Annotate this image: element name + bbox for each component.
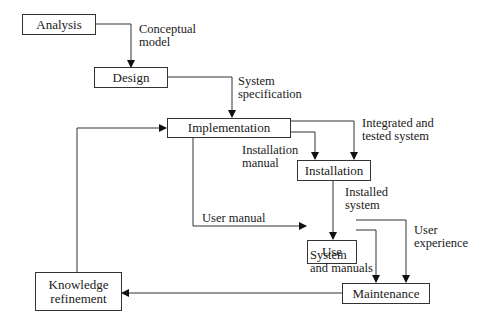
edge-label-system-and-manuals: System and manuals: [310, 249, 373, 275]
edge-label-installed-system: Installed system: [345, 186, 388, 212]
edge-label-user-manual: User manual: [202, 212, 266, 225]
edge-label-conceptual-model: Conceptual model: [139, 23, 196, 49]
node-installation: Installation: [297, 160, 371, 181]
edge-label-installation-manual: Installation manual: [242, 144, 298, 170]
node-knowledge-refinement: Knowledge refinement: [35, 272, 122, 311]
edge-label-integrated-tested-system: Integrated and tested system: [362, 117, 434, 143]
node-design: Design: [94, 67, 168, 88]
edge-label-user-experience: User experience: [414, 224, 468, 250]
node-analysis: Analysis: [22, 14, 96, 35]
node-maintenance: Maintenance: [342, 283, 430, 304]
edge-label-system-specification: System specification: [238, 75, 302, 101]
node-implementation: Implementation: [167, 118, 291, 138]
